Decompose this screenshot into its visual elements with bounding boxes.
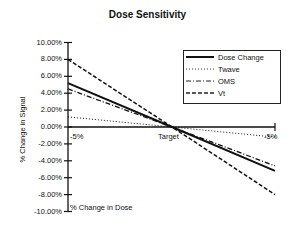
legend-item-vt: Vt xyxy=(184,87,280,99)
legend: Dose Change Twave OMS Vt xyxy=(183,50,281,104)
legend-item-twave: Twave xyxy=(184,63,280,75)
legend-item-oms: OMS xyxy=(184,75,280,87)
x-tick-right: -5% xyxy=(264,132,277,141)
x-tick-target: Target xyxy=(158,132,179,141)
x-tick-left: -5% xyxy=(70,132,83,141)
plot-area xyxy=(0,0,295,234)
x-axis-label: % Change in Dose xyxy=(70,203,133,212)
legend-item-dose-change: Dose Change xyxy=(184,51,280,63)
